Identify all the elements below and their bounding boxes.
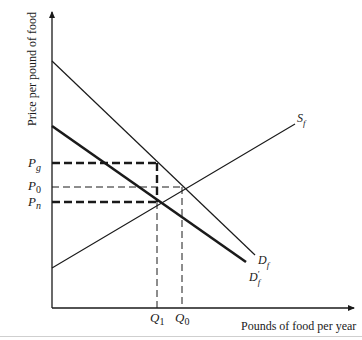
q0-label: Q0 <box>175 310 189 327</box>
supply-demand-diagram: Price per pound of food Pounds of food p… <box>0 0 362 340</box>
supply-curve <box>52 124 295 268</box>
demand-curve <box>52 61 255 255</box>
shifted-demand-curve <box>52 126 246 262</box>
p0-label: P0 <box>27 178 41 195</box>
pn-label: Pn <box>27 194 41 211</box>
demand-curve-label: Df <box>257 253 271 270</box>
x-axis-label: Pounds of food per year <box>241 319 356 333</box>
q1-label: Q1 <box>150 310 164 327</box>
shifted-demand-curve-label: Df′ <box>248 269 262 287</box>
bottom-rule <box>0 336 362 337</box>
pg-label: Pg <box>27 155 41 173</box>
supply-curve-label: Sf <box>297 111 307 128</box>
y-axis-label: Price per pound of food <box>25 12 39 126</box>
